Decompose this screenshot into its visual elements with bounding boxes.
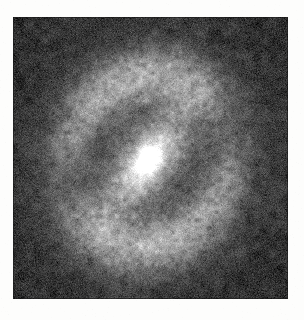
galaxy-heatmap-canvas [13,17,288,299]
plate-caption [0,0,1,1]
plate-label [0,0,1,1]
galaxy-image-plate [13,17,288,299]
scanned-plate-page [0,0,304,320]
